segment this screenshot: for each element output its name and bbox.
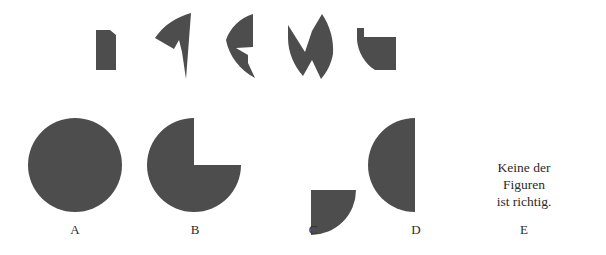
options-group — [28, 118, 415, 235]
option-label-e: E — [504, 222, 544, 238]
option-label-c: C — [293, 222, 333, 238]
shape-puzzle-canvas: A B C D E Keine der Figuren ist richtig. — [0, 0, 606, 255]
option-e-none-of-the-figures[interactable]: Keine der Figuren ist richtig. — [464, 159, 584, 210]
option-d-half-circle[interactable] — [368, 118, 415, 212]
option-a-full-circle[interactable] — [28, 118, 122, 212]
options-layer — [0, 0, 606, 255]
option-e-line-3: ist richtig. — [464, 193, 584, 210]
option-e-line-1: Keine der — [464, 159, 584, 176]
option-label-a: A — [55, 222, 95, 238]
option-label-b: B — [175, 222, 215, 238]
option-e-line-2: Figuren — [464, 176, 584, 193]
option-label-d: D — [396, 222, 436, 238]
option-b-three-quarter-circle[interactable] — [147, 118, 241, 212]
